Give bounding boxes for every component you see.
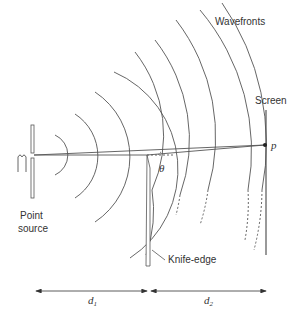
aperture-lower-plate	[31, 158, 34, 198]
aperture-upper-plate	[31, 125, 34, 153]
d2-label: d2	[204, 294, 214, 308]
theta-label: θ	[159, 162, 165, 174]
knife-edge-leader	[152, 250, 165, 260]
wavefronts	[55, 3, 266, 258]
point-p-marker	[263, 143, 267, 147]
point-p-label: p	[270, 139, 277, 151]
direct-ray	[34, 145, 265, 155]
wavefront-arc-7	[176, 20, 216, 190]
wavefronts-label: Wavefronts	[215, 16, 265, 27]
wavefront-arc-8	[200, 10, 252, 190]
rays	[34, 145, 265, 155]
d1-label: d1	[88, 294, 97, 308]
diffraction-diagram: Wavefronts Screen p Point source Knife-e…	[0, 0, 296, 319]
point-source-label-1: Point	[20, 210, 43, 221]
wavefront-arc-3	[95, 92, 130, 222]
wavefront-arc-8-dashed	[245, 190, 248, 240]
diffracted-ray	[147, 145, 265, 155]
wavefront-arc-2	[75, 114, 98, 198]
knife-edge	[146, 155, 150, 266]
screen-label: Screen	[255, 95, 287, 106]
knife-edge-label: Knife-edge	[168, 254, 217, 265]
wavefront-arc-7-dashed	[200, 190, 208, 225]
wavefront-arc-6-dashed	[176, 195, 180, 215]
filament-icon	[18, 155, 26, 172]
point-source-label-2: source	[18, 223, 48, 234]
wavefront-arc-9-dashed	[254, 190, 262, 250]
